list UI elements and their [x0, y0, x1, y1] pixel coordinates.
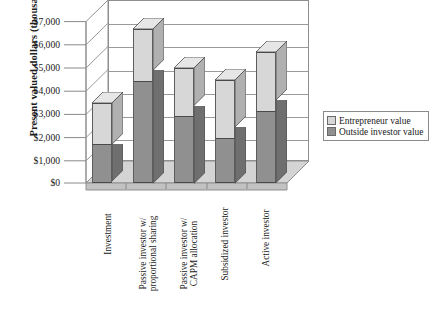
bar-segment-outside-investor: [256, 111, 276, 183]
bar-side-outside-investor: [153, 70, 164, 195]
bar-segment-entrepreneur: [92, 103, 112, 144]
y-tick-3000: $3,000: [16, 108, 60, 120]
x-label-line1: Active investor: [261, 209, 271, 266]
bar-segment-entrepreneur: [256, 52, 276, 111]
bar-side-outside-investor: [276, 100, 287, 195]
stacked-bar-chart: Present valued dollars (thousands): [0, 0, 442, 316]
y-tick-label: $3,000: [16, 108, 60, 119]
bar-segment-outside-investor: [92, 144, 112, 183]
bar-segment-entrepreneur: [133, 29, 153, 81]
legend-swatch-icon: [327, 116, 336, 125]
x-axis-label-passive-capm: Passive investor w/ CAPM allocation: [179, 201, 199, 306]
y-tick-label: $0: [16, 177, 60, 188]
bar-segment-outside-investor: [133, 81, 153, 183]
x-axis-label-investment: Investment: [103, 200, 114, 268]
chart-legend: Entrepreneur value Outside investor valu…: [323, 111, 429, 141]
x-label-line1: Passive investor w/: [179, 201, 189, 306]
x-label-line2: proportional sharing: [148, 201, 158, 306]
y-tick-4000: $4,000: [16, 85, 60, 97]
bar-segment-outside-investor: [174, 116, 194, 183]
y-tick-1000: $1,000: [16, 155, 60, 167]
x-label-line1: Passive investor w/: [138, 201, 148, 306]
y-tick-2000: $2,000: [16, 132, 60, 144]
legend-label: Outside investor value: [339, 127, 423, 137]
x-axis-label-active-investor: Active investor: [261, 200, 272, 276]
bar-segment-outside-investor: [215, 138, 235, 183]
bar-side-outside-investor: [235, 127, 246, 197]
bar-segment-entrepreneur: [215, 80, 235, 138]
y-tick-label: $2,000: [16, 132, 60, 143]
x-label-line1: Investment: [103, 213, 113, 254]
x-axis-label-passive-proportional: Passive investor w/ proportional sharing: [138, 201, 158, 306]
y-tick-label: $4,000: [16, 85, 60, 96]
y-tick-label: $5,000: [16, 62, 60, 73]
legend-item-entrepreneur-value: Entrepreneur value: [327, 115, 423, 126]
x-label-line2: CAPM allocation: [189, 201, 199, 306]
x-axis-label-subsidized-investor: Subsidized investor: [220, 200, 231, 288]
legend-item-outside-investor-value: Outside investor value: [327, 126, 423, 137]
y-tick-label: $6,000: [16, 39, 60, 50]
legend-swatch-icon: [327, 127, 336, 136]
bar-side-outside-investor: [194, 106, 205, 196]
bar-side-outside-investor: [112, 144, 123, 194]
y-tick-5000: $5,000: [16, 62, 60, 74]
y-tick-7000: $7,000: [16, 16, 60, 28]
y-tick-6000: $6,000: [16, 39, 60, 51]
bar-side-entrepreneur: [112, 92, 123, 144]
y-tick-label: $1,000: [16, 155, 60, 166]
y-tick-0: $0: [16, 177, 60, 189]
x-label-line1: Subsidized investor: [220, 207, 230, 280]
y-tick-label: $7,000: [16, 16, 60, 27]
bar-segment-entrepreneur: [174, 68, 194, 116]
legend-label: Entrepreneur value: [339, 116, 411, 126]
